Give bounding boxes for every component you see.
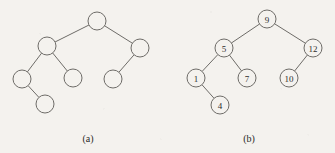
- tree-edge: [229, 55, 241, 71]
- node-circle: [13, 70, 31, 88]
- panel-caption: (b): [243, 133, 255, 145]
- node-circle: [104, 70, 122, 88]
- node-label: 1: [194, 74, 199, 84]
- tree-node: 1: [187, 69, 205, 87]
- panel-caption: (a): [82, 133, 93, 145]
- figure-canvas: 951217104 (a)(b): [0, 0, 335, 153]
- node-circle: [88, 12, 106, 30]
- tree-edge: [231, 24, 259, 43]
- node-label: 7: [245, 74, 250, 84]
- tree-node: [38, 37, 56, 55]
- node-circle: [131, 39, 149, 57]
- nodes-layer: 951217104: [13, 10, 322, 114]
- tree-edge: [55, 25, 89, 42]
- tree-node: 9: [258, 10, 276, 28]
- tree-node: 12: [304, 39, 322, 57]
- node-circle: [36, 95, 54, 113]
- tree-edge: [53, 53, 68, 71]
- tree-node: [36, 95, 54, 113]
- tree-edge: [105, 26, 133, 43]
- tree-edge: [119, 55, 134, 72]
- tree-node: 5: [215, 39, 233, 57]
- captions-layer: (a)(b): [82, 133, 254, 145]
- node-label: 9: [265, 15, 270, 25]
- node-circle: [64, 69, 82, 87]
- tree-edge: [28, 86, 39, 98]
- tree-edge: [275, 24, 306, 43]
- node-label: 10: [285, 74, 295, 84]
- node-circle: [38, 37, 56, 55]
- tree-node: [88, 12, 106, 30]
- tree-edge: [202, 85, 214, 99]
- tree-node: [104, 70, 122, 88]
- tree-node: [64, 69, 82, 87]
- edges-layer: [27, 24, 307, 98]
- tree-node: 7: [238, 69, 256, 87]
- tree-edge: [202, 55, 218, 72]
- tree-node: 10: [280, 69, 298, 87]
- tree-node: 4: [211, 96, 229, 114]
- tree-node: [13, 70, 31, 88]
- tree-node: [131, 39, 149, 57]
- binary-trees-figure: 951217104 (a)(b): [0, 0, 335, 153]
- node-label: 5: [222, 44, 227, 54]
- node-label: 12: [309, 44, 318, 54]
- node-label: 4: [218, 101, 223, 111]
- tree-edge: [27, 53, 41, 72]
- tree-edge: [295, 55, 308, 71]
